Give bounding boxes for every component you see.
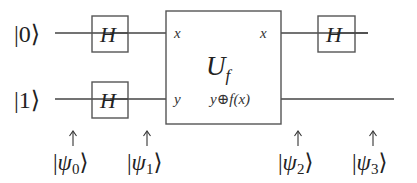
svg-text:H: H xyxy=(325,22,343,47)
state-marker-psi3: |ψ3⟩ xyxy=(352,131,387,177)
svg-text:|ψ2⟩: |ψ2⟩ xyxy=(278,150,313,177)
oracle-output-x: x xyxy=(259,25,267,41)
input-ket-0: |0⟩ xyxy=(14,21,40,47)
hadamard-gate-top-left: H xyxy=(92,16,128,52)
svg-text:|ψ0⟩: |ψ0⟩ xyxy=(53,150,88,177)
oracle-input-y: y xyxy=(172,91,181,107)
hadamard-gate-top-right: H xyxy=(318,16,368,52)
input-ket-1: |1⟩ xyxy=(14,87,40,113)
svg-text:|1⟩: |1⟩ xyxy=(14,87,40,113)
svg-text:H: H xyxy=(99,22,117,47)
oracle-output-y-xor-fx: y⊕f(x) xyxy=(208,91,250,108)
hadamard-gate-bottom-left: H xyxy=(92,82,128,118)
svg-text:H: H xyxy=(99,88,117,113)
svg-text:|ψ1⟩: |ψ1⟩ xyxy=(127,150,162,177)
oracle-label: Uf xyxy=(206,51,233,85)
svg-text:|0⟩: |0⟩ xyxy=(14,21,40,47)
state-marker-psi1: |ψ1⟩ xyxy=(127,131,162,177)
svg-text:|ψ3⟩: |ψ3⟩ xyxy=(352,150,387,177)
oracle-uf-box: x y x y⊕f(x) Uf xyxy=(166,11,281,124)
state-marker-psi2: |ψ2⟩ xyxy=(278,131,313,177)
quantum-circuit: |0⟩ |1⟩ H H x y x y⊕f(x) Uf H xyxy=(0,0,417,183)
state-marker-psi0: |ψ0⟩ xyxy=(53,131,88,177)
oracle-input-x: x xyxy=(173,25,181,41)
